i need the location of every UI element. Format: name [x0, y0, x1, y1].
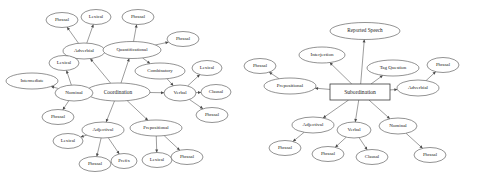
arrowhead-phrasal	[200, 106, 203, 109]
arrowhead-quantificational	[127, 58, 130, 61]
node-shape-ellipse	[367, 60, 419, 76]
node-reported-speech[interactable]: Reported Speech	[330, 23, 400, 40]
node-tag-question[interactable]: Tag Question	[367, 60, 419, 76]
node-shape-ellipse	[130, 120, 182, 136]
node-shape-ellipse	[196, 108, 228, 123]
node-shape-ellipse	[337, 122, 371, 138]
node-shape-ellipse	[46, 13, 78, 28]
node-clausal[interactable]: Clausal	[356, 150, 388, 165]
node-shape-ellipse	[379, 118, 417, 134]
node-shape-ellipse	[86, 83, 150, 101]
edge-subordination-to-nominal	[369, 100, 390, 119]
nodes-layer: CoordinationAdverbialPhrasalLexicalQuant…	[6, 10, 459, 172]
node-shape-ellipse	[292, 117, 334, 133]
edge-coordination-to-adverbial	[90, 59, 110, 84]
node-shape-ellipse	[167, 32, 199, 47]
node-shape-ellipse	[244, 59, 276, 74]
node-shape-ellipse	[414, 148, 446, 163]
node-shape-ellipse	[42, 110, 74, 125]
node-prepositional[interactable]: Prepositional	[130, 120, 182, 136]
node-shape-ellipse	[356, 150, 388, 165]
node-combinatory[interactable]: Combinatory	[135, 63, 185, 79]
arrowhead-phrasal	[67, 27, 70, 30]
arrowhead-lexical	[155, 149, 158, 152]
node-coordination[interactable]: Coordination	[86, 83, 150, 101]
arrowhead-verbal	[161, 91, 164, 94]
node-lexical[interactable]: Lexical	[49, 56, 79, 71]
node-prefix[interactable]: Prefix	[111, 154, 137, 169]
node-adjectival[interactable]: Adjectival	[82, 122, 124, 138]
concept-map-svg: CoordinationAdverbialPhrasalLexicalQuant…	[0, 0, 479, 182]
arrowhead-lexical	[91, 24, 94, 27]
arrowhead-clausal	[364, 147, 367, 150]
node-lexical[interactable]: Lexical	[81, 10, 111, 25]
arrowhead-verbal	[354, 119, 357, 122]
node-nominal[interactable]: Nominal	[55, 85, 93, 101]
node-adjectival[interactable]: Adjectival	[292, 117, 334, 133]
node-shape-ellipse	[79, 157, 111, 172]
node-lexical[interactable]: Lexical	[142, 153, 172, 168]
node-phrasal[interactable]: Phrasal	[167, 32, 199, 47]
node-shape-ellipse	[111, 154, 137, 169]
node-phrasal[interactable]: Phrasal	[244, 59, 276, 74]
arrowhead-reported-speech	[363, 40, 366, 43]
node-shape-ellipse	[135, 63, 185, 79]
arrowhead-phrasal	[63, 107, 66, 110]
node-clausal[interactable]: Clausal	[201, 85, 231, 100]
node-shape-rect	[330, 84, 390, 100]
arrowhead-phrasal	[135, 24, 138, 27]
concept-map-canvas: CoordinationAdverbialPhrasalLexicalQuant…	[0, 0, 479, 182]
arrowhead-clausal	[198, 91, 201, 94]
node-lexical[interactable]: Lexical	[53, 134, 83, 149]
node-shape-ellipse	[192, 61, 222, 76]
edge-subordination-to-adjectival	[323, 100, 349, 118]
node-shape-ellipse	[299, 47, 345, 63]
node-phrasal[interactable]: Phrasal	[171, 150, 203, 165]
node-verbal[interactable]: Verbal	[337, 122, 371, 138]
edge-coordination-to-adjectival	[106, 101, 114, 122]
node-shape-ellipse	[427, 58, 459, 73]
node-shape-ellipse	[55, 85, 93, 101]
edge-subordination-to-interjection	[330, 63, 352, 84]
node-phrasal[interactable]: Phrasal	[414, 148, 446, 163]
arrowhead-phrasal	[269, 72, 272, 75]
node-shape-ellipse	[330, 23, 400, 40]
node-intermediate[interactable]: Intermediate	[6, 73, 58, 89]
node-phrasal[interactable]: Phrasal	[42, 110, 74, 125]
node-quantificational[interactable]: Quantificational	[103, 42, 161, 59]
edge-coordination-to-quantificational	[121, 58, 129, 83]
node-phrasal[interactable]: Phrasal	[46, 13, 78, 28]
arrowhead-adjectival	[323, 115, 326, 118]
arrowhead-lexical	[66, 70, 69, 73]
node-shape-ellipse	[264, 78, 316, 94]
node-phrasal[interactable]: Phrasal	[269, 141, 301, 156]
node-shape-ellipse	[49, 56, 79, 71]
node-shape-ellipse	[53, 134, 83, 149]
node-adverbial[interactable]: Adverbial	[397, 80, 439, 96]
node-phrasal[interactable]: Phrasal	[122, 10, 154, 25]
edge-nominal-to-phrasal	[406, 133, 423, 148]
edge-coordination-to-prepositional	[127, 101, 148, 121]
node-phrasal[interactable]: Phrasal	[196, 108, 228, 123]
node-verbal[interactable]: Verbal	[164, 85, 196, 101]
arrowhead-prefix	[116, 151, 119, 154]
arrowhead-phrasal	[96, 153, 99, 156]
node-subordination[interactable]: Subordination	[330, 84, 390, 100]
node-phrasal[interactable]: Phrasal	[79, 157, 111, 172]
edge-subordination-to-verbal	[355, 100, 358, 122]
node-shape-ellipse	[397, 80, 439, 96]
node-interjection[interactable]: Interjection	[299, 47, 345, 63]
node-shape-ellipse	[103, 42, 161, 59]
node-lexical[interactable]: Lexical	[192, 61, 222, 76]
edge-subordination-to-reported-speech	[361, 40, 365, 85]
node-phrasal[interactable]: Phrasal	[312, 147, 344, 162]
node-phrasal[interactable]: Phrasal	[427, 58, 459, 73]
node-nominal[interactable]: Nominal	[379, 118, 417, 134]
node-shape-ellipse	[201, 85, 231, 100]
node-prepositional[interactable]: Prepositional	[264, 78, 316, 94]
edge-prepositional-to-phrasal	[164, 136, 180, 151]
node-shape-ellipse	[142, 153, 172, 168]
node-shape-ellipse	[171, 150, 203, 165]
node-shape-ellipse	[164, 85, 196, 101]
node-shape-ellipse	[82, 122, 124, 138]
